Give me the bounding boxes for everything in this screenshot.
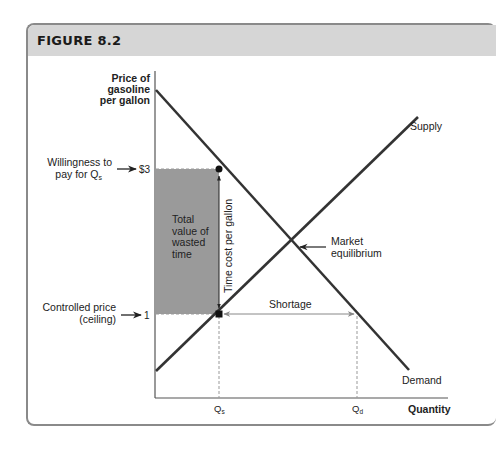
time-cost-label: Time cost per gallon [222, 199, 234, 293]
shortage-label: Shortage [269, 298, 312, 310]
demand-label: Demand [402, 374, 442, 386]
ceiling-label: Controlled price(ceiling) [42, 301, 116, 325]
tick-1: 1 [144, 310, 150, 321]
ceiling-point [216, 311, 223, 318]
wtp-point [216, 166, 223, 173]
y-axis-label: Price ofgasolineper gallon [100, 72, 151, 106]
equilibrium-label: Marketequilibrium [331, 235, 382, 259]
tick-qd: Qd [352, 403, 363, 415]
tick-qs: Qs [214, 403, 225, 415]
tick-3: $3 [139, 164, 151, 175]
supply-label: Supply [410, 120, 443, 132]
wtp-label: Willingness topay for Qs [47, 156, 112, 181]
x-axis-label: Quantity [408, 403, 451, 415]
